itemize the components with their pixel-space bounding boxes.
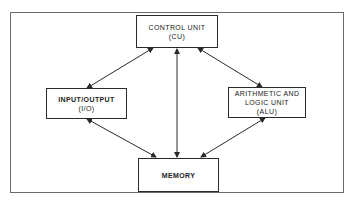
control-unit-abbr: (CU) <box>169 32 185 41</box>
alu-label-line2: LOGIC UNIT <box>245 98 289 107</box>
arrow-alu-memory <box>201 118 265 157</box>
arrow-cu-io <box>87 48 153 88</box>
memory-box: MEMORY <box>138 158 219 192</box>
input-output-abbr: (I/O) <box>79 104 95 113</box>
alu-abbr: (ALU) <box>257 107 277 116</box>
input-output-label: INPUT/OUTPUT <box>58 95 115 104</box>
memory-label: MEMORY <box>162 171 196 180</box>
input-output-box: INPUT/OUTPUT (I/O) <box>46 88 127 119</box>
alu-label-line1: ARITHMETIC AND <box>235 89 300 98</box>
control-unit-box: CONTROL UNIT (CU) <box>136 15 218 48</box>
arrow-cu-alu <box>198 48 262 87</box>
alu-box: ARITHMETIC AND LOGIC UNIT (ALU) <box>228 87 306 118</box>
arrow-io-memory <box>87 119 156 157</box>
control-unit-label: CONTROL UNIT <box>148 23 205 32</box>
